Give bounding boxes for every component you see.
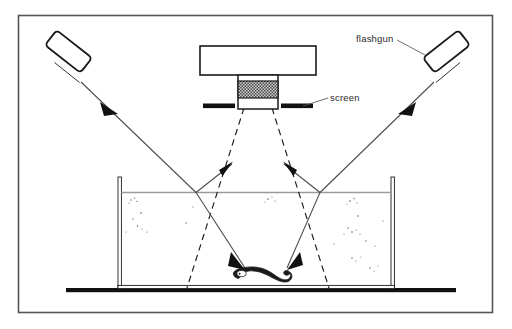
- diagram-canvas: flashgun screen: [0, 0, 512, 329]
- flashgun-label: flashgun: [356, 33, 394, 44]
- lens-barrel: [238, 75, 278, 109]
- lens-grip-band: [238, 81, 278, 98]
- screen-bar-left: [203, 104, 235, 109]
- camera-body: [200, 46, 316, 75]
- screen-label: screen: [330, 92, 360, 103]
- apparatus-diagram: flashgun screen: [0, 0, 512, 329]
